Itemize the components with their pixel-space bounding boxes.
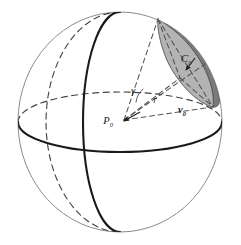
axis-vector-subscript: 0 [183,110,186,117]
radius-label: r [153,95,157,105]
spherical-cap-figure: C0 γ r P0 v0 [0,0,241,245]
geometry-canvas: C0 γ r P0 v0 [0,0,241,245]
